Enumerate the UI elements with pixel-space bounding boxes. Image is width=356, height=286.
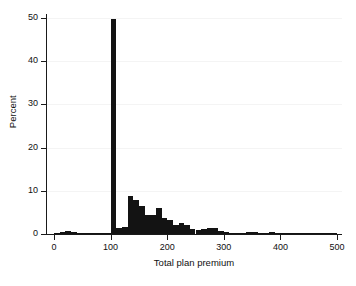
x-axis-tick-label: 400 bbox=[260, 243, 300, 252]
y-axis-tick-label: 30 bbox=[28, 99, 38, 108]
x-axis-line bbox=[46, 234, 342, 235]
y-axis-tick bbox=[41, 18, 46, 19]
histogram-bar bbox=[111, 19, 117, 234]
y-axis-line bbox=[46, 14, 47, 235]
x-axis-tick bbox=[111, 235, 112, 240]
y-axis-tick-label: 40 bbox=[28, 56, 38, 65]
x-axis-tick-label: 0 bbox=[34, 243, 74, 252]
x-axis-tick-label: 100 bbox=[91, 243, 131, 252]
histogram-figure: 01020304050 0100200300400500 Total plan … bbox=[0, 0, 356, 286]
y-axis-tick-label: 0 bbox=[33, 229, 38, 238]
y-axis-tick bbox=[41, 104, 46, 105]
x-axis-tick-label: 200 bbox=[147, 243, 187, 252]
x-axis-tick-label: 300 bbox=[204, 243, 244, 252]
x-axis-tick bbox=[224, 235, 225, 240]
x-axis-tick bbox=[337, 235, 338, 240]
x-axis-tick bbox=[54, 235, 55, 240]
x-axis-tick bbox=[167, 235, 168, 240]
y-axis-tick bbox=[41, 148, 46, 149]
plot-area bbox=[46, 12, 341, 234]
y-axis-tick-label: 50 bbox=[28, 13, 38, 22]
y-axis-tick bbox=[41, 234, 46, 235]
y-axis-title: Percent bbox=[8, 82, 18, 142]
x-axis-tick bbox=[280, 235, 281, 240]
y-axis-tick-label: 20 bbox=[28, 143, 38, 152]
x-axis-title: Total plan premium bbox=[46, 258, 342, 268]
x-axis-tick-label: 500 bbox=[317, 243, 356, 252]
y-axis-tick bbox=[41, 191, 46, 192]
y-axis-tick bbox=[41, 61, 46, 62]
histogram-bars bbox=[46, 12, 341, 234]
y-axis-tick-label: 10 bbox=[28, 186, 38, 195]
